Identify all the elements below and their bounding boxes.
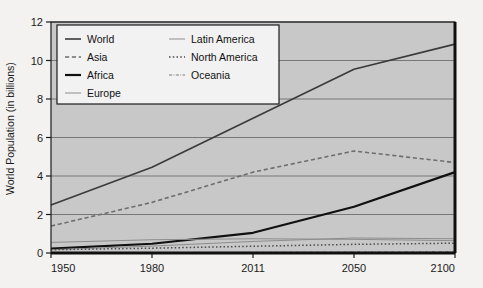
y-axis-title: World Population (in billions) (4, 62, 16, 195)
y-tick-label-12: 12 (31, 16, 43, 28)
y-tick-label-2: 2 (37, 209, 43, 221)
chart-figure: 024681012 19501980201120502100 World Pop… (0, 0, 483, 288)
y-tick-label-8: 8 (37, 93, 43, 105)
x-tick-label-2050: 2050 (342, 262, 366, 274)
legend-label-asia: Asia (87, 51, 108, 63)
x-tick-label-2100: 2100 (431, 262, 455, 274)
legend-label-world: World (87, 33, 114, 45)
y-tick-label-4: 4 (37, 170, 43, 182)
x-tick-label-2011: 2011 (241, 262, 265, 274)
legend-label-north-america: North America (191, 51, 258, 63)
legend-label-africa: Africa (87, 69, 114, 81)
chart-legend: WorldAsiaAfricaEuropeLatin AmericaNorth … (57, 25, 279, 104)
x-tick-label-1950: 1950 (51, 262, 75, 274)
y-tick-label-6: 6 (37, 132, 43, 144)
x-tick-label-1980: 1980 (140, 262, 164, 274)
legend-label-latin-america: Latin America (191, 33, 255, 45)
y-tick-label-10: 10 (31, 55, 43, 67)
legend-label-oceania: Oceania (191, 69, 230, 81)
legend-label-europe: Europe (87, 87, 121, 99)
y-tick-label-0: 0 (37, 247, 43, 259)
population-line-chart: 024681012 19501980201120502100 World Pop… (0, 0, 483, 288)
